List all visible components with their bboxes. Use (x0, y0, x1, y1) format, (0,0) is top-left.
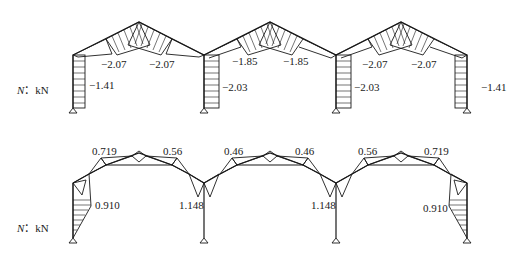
pin-support-icon (332, 108, 340, 113)
column-label: −2.03 (222, 81, 248, 93)
rafter-label: −2.07 (411, 58, 437, 70)
value-label: 0.46 (295, 145, 315, 157)
pin-support-icon (69, 108, 77, 113)
bottom-supports (69, 238, 471, 243)
rafter-label: −2.07 (362, 58, 388, 70)
column-label: −1.41 (89, 79, 114, 91)
rafter-label: −2.07 (149, 58, 175, 70)
rafter-label: −1.85 (283, 55, 309, 67)
value-label: 0.719 (92, 145, 117, 157)
rafter-force-blocks (73, 22, 467, 58)
bottom-frame-diagram: 0.719 0.56 0.46 0.46 0.56 0.719 0.910 1.… (16, 145, 471, 243)
diagram-unit-label: N：kN (16, 84, 49, 96)
pin-support-icon (200, 108, 208, 113)
top-supports (69, 108, 471, 113)
column-label: −2.03 (354, 81, 380, 93)
top-frame-diagram: −1.41 −2.03 −2.03 −1.41 −2.07 −2.07 −1.8… (16, 22, 506, 113)
bottom-frame-members (73, 153, 467, 238)
value-label: 0.56 (358, 145, 378, 157)
value-label: 0.719 (424, 145, 449, 157)
top-frame-members (73, 22, 467, 108)
value-label: 1.148 (311, 199, 336, 211)
value-label: 1.148 (179, 199, 204, 211)
rafter-label: −1.85 (232, 55, 258, 67)
value-label: 0.56 (163, 145, 183, 157)
force-diagrams: −1.41 −2.03 −2.03 −1.41 −2.07 −2.07 −1.8… (0, 0, 527, 261)
diagram-unit-label: N：kN (16, 222, 49, 234)
pin-support-icon (463, 108, 471, 113)
pin-support-icon (200, 238, 208, 243)
rafter-label: −2.07 (101, 58, 127, 70)
value-label: 0.46 (224, 145, 244, 157)
column-label: −1.41 (481, 81, 506, 93)
value-label: 0.910 (95, 199, 120, 211)
pin-support-icon (332, 238, 340, 243)
moment-blocks (73, 151, 467, 238)
column-force-blocks (73, 55, 467, 108)
value-label: 0.910 (423, 202, 448, 214)
